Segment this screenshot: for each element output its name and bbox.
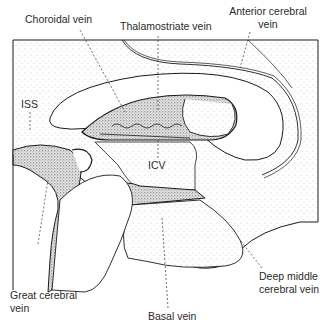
- label-basal-vein: Basal vein: [148, 310, 196, 322]
- label-anterior-cerebral-vein-1: Anterior cerebral: [218, 5, 318, 17]
- label-great-cerebral-vein-2: vein: [10, 302, 29, 314]
- label-deep-middle-cerebral-vein-2: cerebral vein: [259, 283, 319, 295]
- label-great-cerebral-vein-1: Great cerebral: [10, 289, 77, 301]
- label-thalamostriate-vein: Thalamostriate vein: [120, 20, 212, 32]
- label-iss: ISS: [21, 98, 38, 110]
- venous-anatomy-diagram: Choroidal vein Thalamostriate vein Anter…: [0, 0, 326, 327]
- label-choroidal-vein: Choroidal vein: [25, 13, 92, 25]
- label-anterior-cerebral-vein-2: vein: [218, 18, 318, 30]
- label-deep-middle-cerebral-vein-1: Deep middle: [259, 270, 318, 282]
- label-icv: ICV: [148, 159, 166, 171]
